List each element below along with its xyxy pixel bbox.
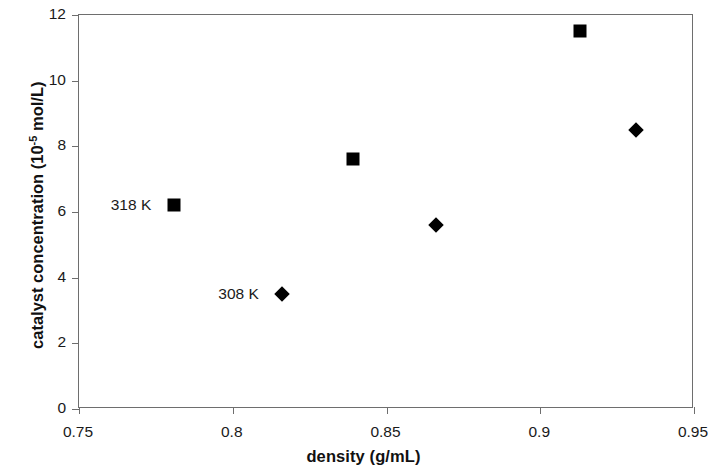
y-axis-title-main: catalyst concentration (10	[28, 145, 46, 349]
y-axis-tick-label: 2	[0, 335, 66, 351]
y-axis-tick-label: 10	[0, 72, 66, 88]
data-point-square	[346, 153, 359, 166]
data-point-diamond	[628, 122, 644, 138]
x-axis-tick-label: 0.75	[63, 424, 93, 440]
series-label: 308 K	[218, 286, 259, 302]
y-axis-tick-label: 8	[0, 138, 66, 154]
y-axis-tick-label: 4	[0, 269, 66, 285]
x-axis-tick	[387, 407, 388, 414]
x-axis-tick-label: 0.85	[370, 424, 400, 440]
y-axis-tick	[72, 278, 79, 279]
data-point-square	[574, 25, 587, 38]
x-axis-tick-label: 0.8	[221, 424, 243, 440]
y-axis-tick	[72, 409, 79, 410]
y-axis-title-tail: mol/L)	[28, 82, 46, 136]
x-axis-tick-label: 0.9	[528, 424, 550, 440]
x-axis-tick	[233, 407, 234, 414]
x-axis-title: density (g/mL)	[0, 447, 727, 466]
scatter-chart-figure: catalyst concentration (10-5 mol/L) 318 …	[0, 0, 727, 476]
plot-area: 318 K308 K	[78, 14, 693, 408]
x-axis-tick	[694, 407, 695, 414]
y-axis-tick	[72, 15, 79, 16]
x-axis-tick	[79, 407, 80, 414]
x-axis-tick	[540, 407, 541, 414]
y-axis-tick	[72, 146, 79, 147]
y-axis-tick-label: 6	[0, 203, 66, 219]
data-point-diamond	[428, 217, 444, 233]
y-axis-tick	[72, 343, 79, 344]
series-label: 318 K	[111, 198, 152, 214]
data-point-square	[168, 199, 181, 212]
y-axis-tick-label: 0	[0, 400, 66, 416]
y-axis-tick	[72, 212, 79, 213]
y-axis-tick-label: 12	[0, 6, 66, 22]
data-point-diamond	[274, 286, 290, 302]
y-axis-tick	[72, 81, 79, 82]
x-axis-tick-label: 0.95	[678, 424, 708, 440]
